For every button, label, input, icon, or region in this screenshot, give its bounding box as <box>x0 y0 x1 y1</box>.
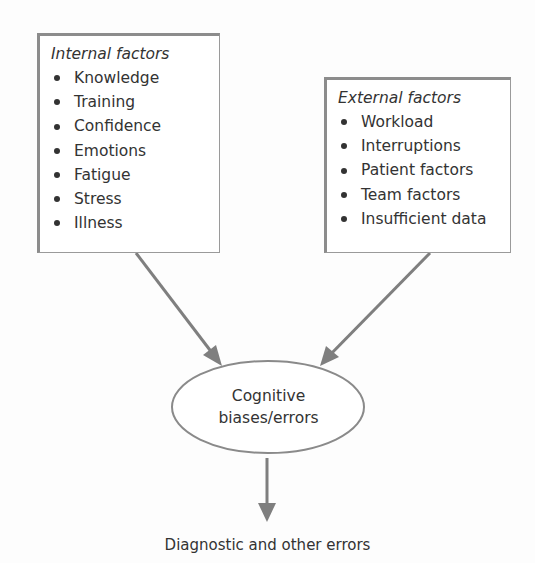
bullet-icon <box>341 192 347 198</box>
bullet-icon <box>54 172 60 178</box>
bullet-icon <box>54 220 60 226</box>
bullet-icon <box>341 119 347 125</box>
bullet-icon <box>54 75 60 81</box>
biases-node-line1: Cognitive <box>232 385 305 407</box>
bullet-icon <box>54 148 60 154</box>
list-item: Emotions <box>50 139 209 163</box>
bullet-icon <box>54 196 60 202</box>
list-item: Knowledge <box>50 66 209 90</box>
list-item: Interruptions <box>337 134 500 158</box>
external-factors-list: Workload Interruptions Patient factors T… <box>337 110 500 231</box>
arrow-internal-to-biases <box>136 253 216 358</box>
arrow-external-to-biases <box>326 253 430 359</box>
list-item: Insufficient data <box>337 207 500 231</box>
list-item: Team factors <box>337 183 500 207</box>
list-item: Illness <box>50 211 209 235</box>
list-item: Confidence <box>50 114 209 138</box>
biases-node-line2: biases/errors <box>218 407 318 429</box>
outcome-label: Diagnostic and other errors <box>0 535 535 555</box>
bullet-icon <box>341 216 347 222</box>
internal-factors-list: Knowledge Training Confidence Emotions F… <box>50 66 209 235</box>
internal-factors-title: Internal factors <box>51 42 209 66</box>
bullet-icon <box>341 168 347 174</box>
bullet-icon <box>54 99 60 105</box>
arrowhead-outcome <box>258 503 276 522</box>
bullet-icon <box>341 143 347 149</box>
list-item: Patient factors <box>337 158 500 182</box>
internal-factors-box: Internal factors Knowledge Training Conf… <box>37 33 220 253</box>
external-factors-box: External factors Workload Interruptions … <box>324 77 511 253</box>
external-factors-title: External factors <box>338 86 500 110</box>
list-item: Stress <box>50 187 209 211</box>
list-item: Workload <box>337 110 500 134</box>
biases-node-label: Cognitive biases/errors <box>172 360 365 454</box>
list-item: Training <box>50 90 209 114</box>
list-item: Fatigue <box>50 163 209 187</box>
bullet-icon <box>54 124 60 130</box>
